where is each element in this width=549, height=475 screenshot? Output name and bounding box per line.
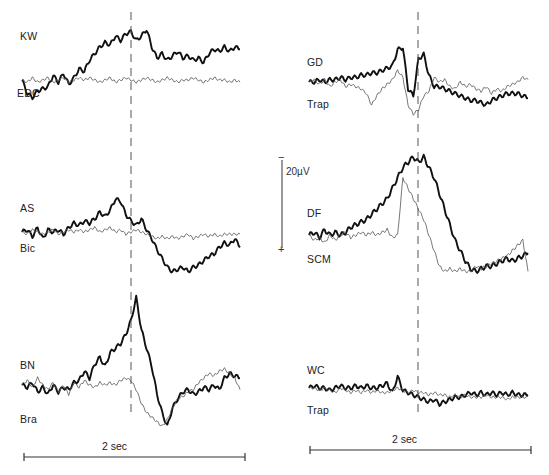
time-scale-label-right: 2 sec [392,433,417,445]
label-as: AS [20,202,34,214]
scale-minus-sign: − [278,151,284,163]
time-scale-bar-right [310,446,531,454]
emg-figure [0,0,549,475]
time-scale-bar-left [24,453,245,461]
label-bra: Bra [20,413,37,425]
label-wc: WC [307,364,325,376]
label-edc: EDC [17,87,40,99]
label-bn: BN [20,359,35,371]
label-bic: Bic [20,242,35,254]
trace-layer [22,30,528,426]
scale-amplitude-label: 20µV [286,166,310,177]
label-trap-1: Trap [307,98,329,110]
label-kw: KW [20,30,37,42]
label-gd: GD [307,56,323,68]
scale-plus-sign: + [278,243,284,255]
label-scm: SCM [307,253,331,265]
label-trap-2: Trap [307,404,329,416]
label-df: DF [307,207,321,219]
time-scale-label-left: 2 sec [102,440,127,452]
